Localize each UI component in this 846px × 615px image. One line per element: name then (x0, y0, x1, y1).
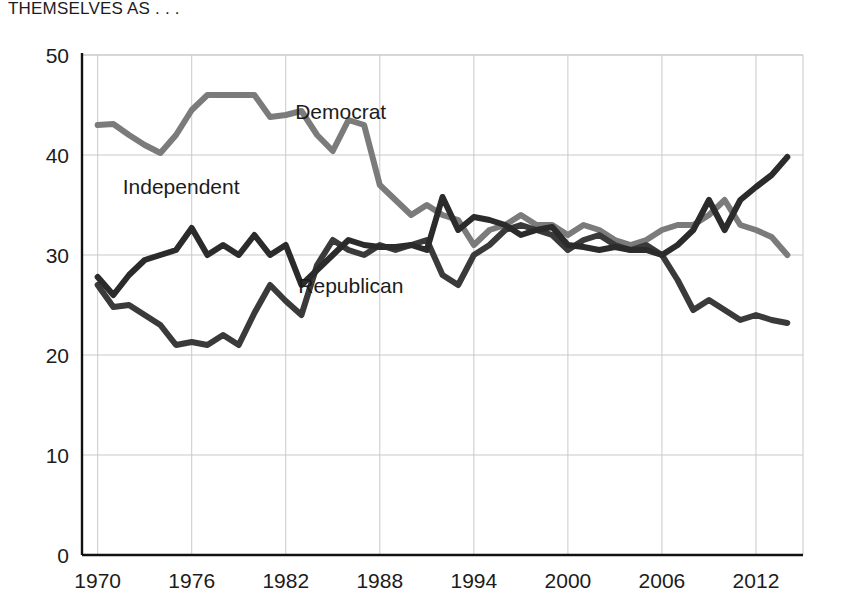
y-tick-label: 40 (46, 144, 69, 167)
x-tick-label: 2012 (733, 569, 780, 592)
y-tick-label: 30 (46, 244, 69, 267)
republican-label: Republican (298, 274, 403, 297)
series-lines (98, 95, 788, 345)
chart-figure: PERCENTAGE IDENTIFYING THEMSELVES AS . .… (0, 0, 846, 615)
axes (82, 53, 803, 555)
y-tick-label: 0 (57, 544, 69, 567)
independent-label: Independent (123, 175, 240, 198)
x-tick-label: 1994 (450, 569, 497, 592)
y-tick-label: 10 (46, 444, 69, 467)
series-annotations: DemocratIndependentRepublican (123, 100, 404, 297)
x-tick-label: 1982 (262, 569, 309, 592)
x-tick-label: 2000 (545, 569, 592, 592)
x-tick-label: 2006 (639, 569, 686, 592)
democrat-label: Democrat (295, 100, 386, 123)
x-tick-label: 1988 (356, 569, 403, 592)
y-tick-label: 50 (46, 44, 69, 67)
gridlines (82, 55, 803, 555)
y-axis-tick-labels: 01020304050 (46, 44, 69, 567)
x-tick-label: 1970 (74, 569, 121, 592)
y-tick-label: 20 (46, 344, 69, 367)
line-chart-svg: 01020304050 1970197619821988199420002006… (0, 0, 846, 615)
x-axis-tick-labels: 19701976198219881994200020062012 (74, 569, 779, 592)
x-tick-label: 1976 (168, 569, 215, 592)
